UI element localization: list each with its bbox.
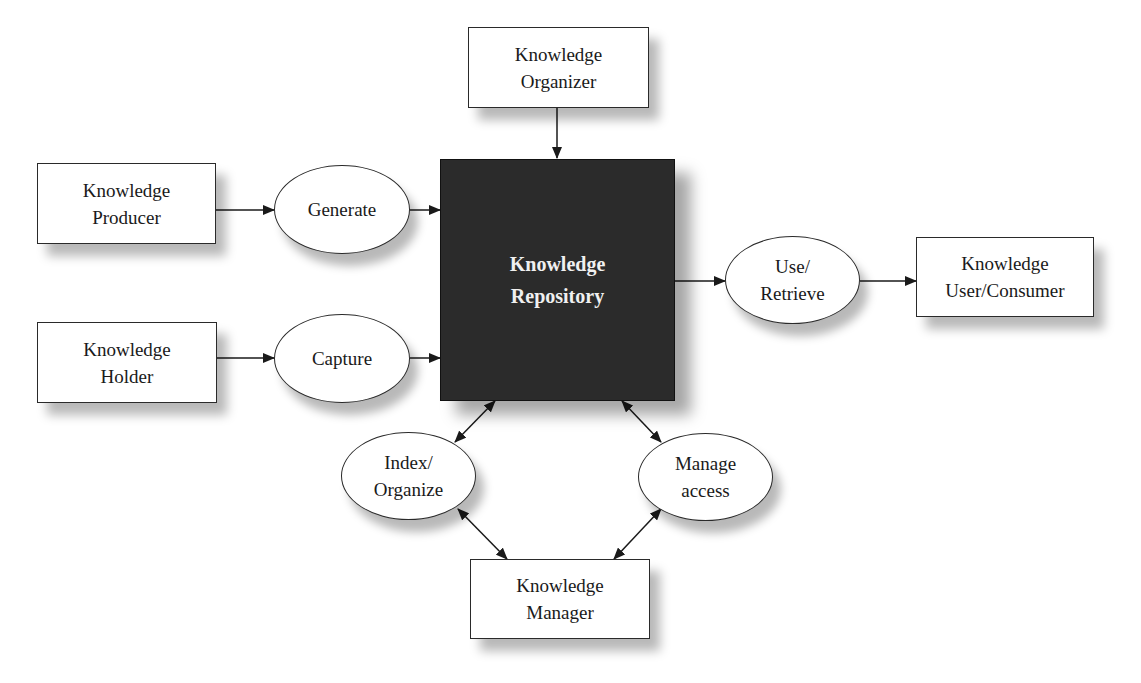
knowledge-organizer-box: Knowledge Organizer (468, 27, 649, 108)
knowledge-repository-box: Knowledge Repository (440, 159, 675, 401)
use-retrieve-ellipse: Use/ Retrieve (725, 236, 860, 324)
knowledge-organizer-label: Knowledge Organizer (515, 41, 603, 95)
knowledge-producer-box: Knowledge Producer (37, 163, 216, 244)
edge-repository-manage (622, 401, 661, 442)
manage-access-ellipse: Manage access (638, 433, 773, 521)
knowledge-producer-label: Knowledge Producer (83, 177, 171, 231)
edge-repository-index (455, 401, 495, 442)
use-retrieve-label: Use/ Retrieve (760, 253, 824, 307)
generate-label: Generate (308, 196, 377, 223)
edge-index-manager (458, 509, 507, 559)
generate-ellipse: Generate (274, 165, 410, 254)
knowledge-manager-label: Knowledge Manager (516, 572, 604, 626)
knowledge-manager-box: Knowledge Manager (470, 559, 650, 639)
knowledge-consumer-box: Knowledge User/Consumer (916, 237, 1094, 317)
knowledge-consumer-label: Knowledge User/Consumer (945, 250, 1064, 304)
capture-ellipse: Capture (274, 314, 410, 403)
edge-manage-manager (614, 509, 661, 559)
knowledge-holder-label: Knowledge Holder (83, 336, 171, 390)
index-organize-ellipse: Index/ Organize (341, 432, 476, 520)
knowledge-management-diagram: Knowledge Organizer Knowledge Producer G… (0, 0, 1141, 683)
knowledge-holder-box: Knowledge Holder (37, 322, 217, 403)
index-organize-label: Index/ Organize (374, 449, 443, 503)
manage-access-label: Manage access (675, 450, 736, 504)
capture-label: Capture (312, 345, 372, 372)
knowledge-repository-label: Knowledge Repository (510, 248, 606, 312)
